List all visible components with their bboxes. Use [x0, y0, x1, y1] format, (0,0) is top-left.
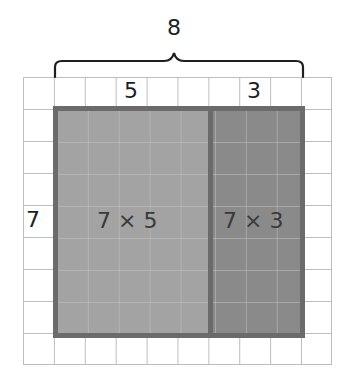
- height-label-7: 7: [26, 209, 40, 231]
- width-label-3: 3: [247, 80, 261, 102]
- region-label-7x5: 7 × 5: [97, 210, 157, 232]
- total-width-label: 8: [167, 17, 181, 39]
- brace-icon: [0, 0, 341, 381]
- region-label-7x3: 7 × 3: [223, 210, 283, 232]
- width-label-5: 5: [124, 80, 138, 102]
